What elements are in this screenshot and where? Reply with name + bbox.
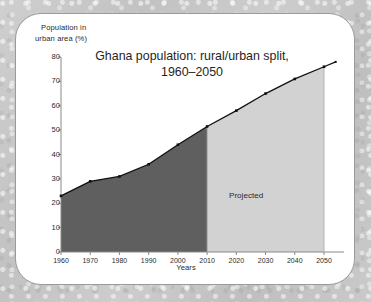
chart-title-line2: 1960–2050 [82,64,302,80]
y-tick-label: 60 [38,101,60,110]
page-background: Population in urban area (%) Ghana popul… [0,0,371,302]
x-axis-label: Years [16,263,356,272]
y-tick-label: 40 [38,150,60,159]
area-fill-observed [61,126,207,252]
y-tick-label: 80 [38,52,60,61]
y-axis-tick-labels: 01020304050607080 [36,14,60,286]
y-tick-label: 10 [38,223,60,232]
y-tick-label: 70 [38,76,60,85]
chart-title: Ghana population: rural/urban split, 196… [82,48,302,80]
y-tick-label: 30 [38,174,60,183]
projected-annotation-label: Projected [229,191,263,200]
y-tick-label: 50 [38,125,60,134]
chart-plot-area: Population in urban area (%) Ghana popul… [16,14,356,286]
y-tick-label: 20 [38,198,60,207]
chart-card: Population in urban area (%) Ghana popul… [15,13,355,285]
chart-title-line1: Ghana population: rural/urban split, [82,48,302,64]
